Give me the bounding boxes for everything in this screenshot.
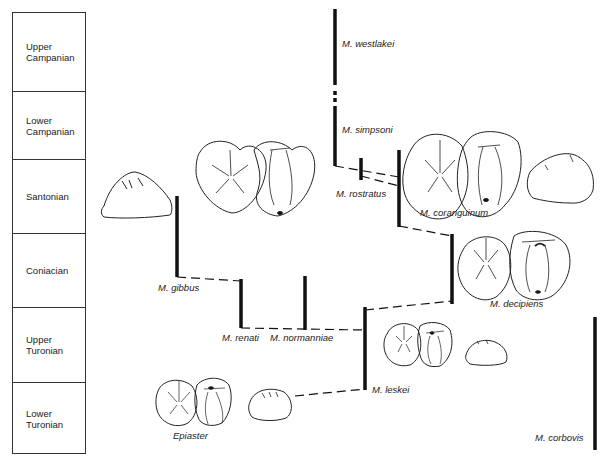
phylogeny-diagram: Upper Campanian Lower Campanian Santonia…	[0, 0, 608, 466]
fossil-gibbus-oral	[254, 142, 315, 216]
taxon-label-gibbus: M. gibbus	[158, 282, 199, 293]
lineage-graphics	[0, 0, 608, 466]
fossil-leskei-profile	[466, 340, 507, 365]
fossil-gibbus-profile	[101, 172, 172, 218]
fossil-decipiens-aboral	[458, 237, 511, 300]
taxon-label-corbovis: M. corbovis	[535, 432, 584, 443]
fossil-epiaster-oral	[195, 378, 231, 425]
fossil-coranguinum-profile	[527, 154, 593, 203]
fossil-coranguinum-oral	[457, 132, 521, 217]
taxon-label-epiaster: Epiaster	[173, 430, 208, 441]
taxon-label-renati: M. renati	[222, 332, 259, 343]
taxon-label-normanniae: M. normanniae	[270, 332, 333, 343]
taxon-label-simpsoni: M. simpsoni	[342, 124, 393, 135]
taxon-label-decipiens: M. decipiens	[490, 298, 543, 309]
taxon-label-westlakei: M. westlakei	[342, 38, 394, 49]
taxon-label-rostratus: M. rostratus	[336, 188, 386, 199]
taxon-label-coranguinum: M. coranguinum	[420, 207, 488, 218]
fossil-epiaster-aboral	[156, 380, 197, 425]
fossil-leskei-aboral	[384, 324, 421, 366]
taxon-label-leskei: M. leskei	[372, 384, 409, 395]
fossil-decipiens-oral	[510, 231, 570, 299]
fossil-leskei-oral	[418, 323, 452, 367]
fossil-gibbus-aboral	[196, 141, 266, 213]
